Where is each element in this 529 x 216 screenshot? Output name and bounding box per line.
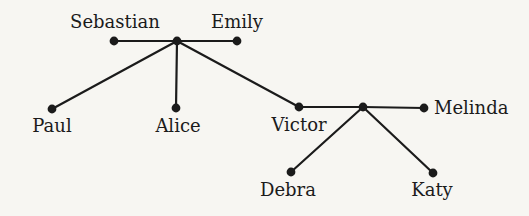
edge-union-top-victor — [177, 41, 299, 107]
edge-union-right-melinda — [363, 107, 424, 108]
node-label-paul: Paul — [32, 115, 72, 136]
node-dot-alice — [172, 104, 181, 113]
node-label-sebastian: Sebastian — [70, 11, 160, 32]
node-dot-sebastian — [110, 37, 119, 46]
node-dot-victor — [295, 103, 304, 112]
edge-union-top-paul — [52, 41, 177, 109]
node-label-victor: Victor — [270, 114, 327, 135]
node-label-katy: Katy — [411, 179, 453, 200]
node-dot-union-top — [173, 37, 182, 46]
node-label-debra: Debra — [260, 179, 316, 200]
node-label-melinda: Melinda — [434, 97, 509, 118]
node-dot-paul — [48, 105, 57, 114]
family-tree-svg: SebastianEmilyPaulAliceVictorMelindaDebr… — [0, 0, 529, 216]
node-label-alice: Alice — [154, 115, 200, 136]
node-dot-emily — [233, 37, 242, 46]
node-dot-melinda — [420, 104, 429, 113]
node-label-emily: Emily — [211, 11, 264, 32]
edge-union-right-katy — [363, 107, 433, 173]
node-dot-debra — [287, 168, 296, 177]
node-dot-katy — [429, 169, 438, 178]
edge-union-top-alice — [176, 41, 177, 108]
node-dot-union-right — [359, 103, 368, 112]
family-tree-figure: SebastianEmilyPaulAliceVictorMelindaDebr… — [0, 0, 529, 216]
